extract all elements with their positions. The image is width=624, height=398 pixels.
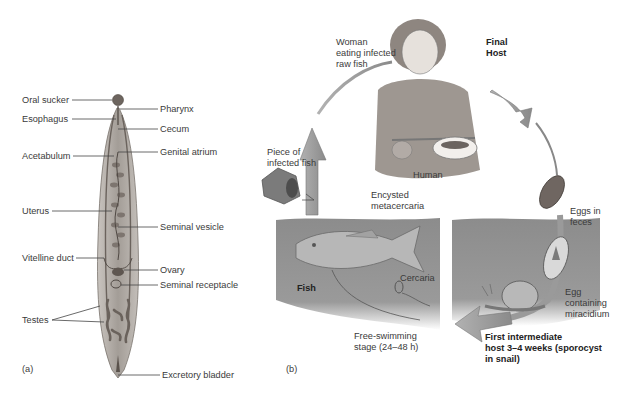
label-esophagus: Esophagus [22, 114, 68, 125]
label-human: Human [413, 170, 443, 181]
label-egg-miracidium: Egg containing miracidium [565, 287, 609, 320]
label-excretory-bladder: Excretory bladder [162, 370, 234, 381]
label-testes: Testes [22, 315, 49, 326]
label-piece-of-fish: Piece of infected fish [267, 147, 316, 169]
label-free-swimming: Free-swimming stage (24–48 h) [354, 331, 418, 353]
label-oral-sucker: Oral sucker [22, 95, 69, 106]
label-uterus: Uterus [22, 206, 49, 217]
label-pharynx: Pharynx [160, 104, 194, 115]
label-eggs-in-feces: Eggs in feces [570, 206, 601, 228]
label-seminal-receptacle: Seminal receptacle [160, 280, 238, 291]
label-encysted-metacercaria: Encysted metacercaria [371, 190, 424, 212]
clonorchis-figure: Oral sucker Esophagus Acetabulum Uterus … [0, 0, 624, 398]
fish-piece [262, 168, 300, 204]
label-fish: Fish [297, 283, 316, 294]
label-vitelline-duct: Vitelline duct [22, 253, 74, 264]
panel-b-tag: (b) [286, 364, 297, 375]
label-cecum: Cecum [160, 124, 189, 135]
label-ovary: Ovary [160, 265, 185, 276]
label-acetabulum: Acetabulum [22, 151, 71, 162]
label-genital-atrium: Genital atrium [160, 147, 217, 158]
label-final-host: Final Host [486, 37, 507, 59]
label-first-intermediate-host: First intermediate host 3–4 weeks (sporo… [485, 332, 602, 365]
label-woman-eating: Woman eating infected raw fish [336, 37, 396, 70]
label-cercaria: Cercaria [400, 273, 435, 284]
panel-a-tag: (a) [22, 364, 33, 375]
label-seminal-vesicle: Seminal vesicle [160, 222, 224, 233]
